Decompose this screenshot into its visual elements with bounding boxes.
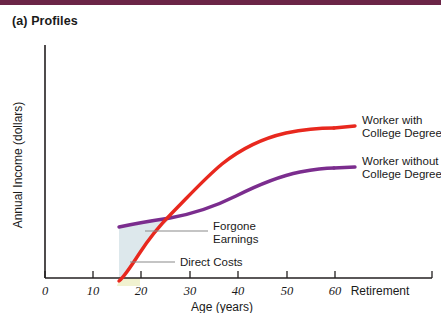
legend-leader-line-with-degree [334, 126, 355, 128]
x-tick-label-40: 40 [232, 284, 245, 298]
x-axis-ticks [45, 271, 432, 278]
legend-leader-line-without-degree [334, 167, 355, 168]
x-tick-label-20: 20 [135, 284, 148, 298]
x-tick-label-50: 50 [281, 284, 294, 298]
annotation-label-forgone-earnings-line1: Forgone [213, 220, 256, 232]
legend-label-with-degree-line1: Worker with [362, 114, 423, 126]
figure-panel-profiles: (a) Profiles 0 10 20 30 40 50 60 Retirem… [0, 0, 441, 313]
income-profiles-chart: 0 10 20 30 40 50 60 Retirement Age (year… [0, 0, 441, 313]
x-axis-title: Age (years) [191, 300, 253, 313]
annotation-label-direct-costs: Direct Costs [180, 256, 243, 268]
x-tick-label-60: 60 [329, 284, 342, 298]
legend-label-without-degree-line1: Worker without [362, 155, 439, 167]
legend-label-without-degree-line2: College Degree [362, 168, 441, 180]
x-tick-label-0: 0 [42, 284, 49, 298]
series-line-worker-without-college-degree [119, 168, 334, 227]
x-axis-retirement-label: Retirement [351, 284, 410, 298]
x-tick-label-30: 30 [183, 284, 197, 298]
legend-label-with-degree-line2: College Degree [362, 127, 441, 139]
x-tick-label-10: 10 [87, 284, 100, 298]
y-axis-title: Annual Income (dollars) [11, 102, 25, 229]
annotation-label-forgone-earnings-line2: Earnings [213, 233, 259, 245]
